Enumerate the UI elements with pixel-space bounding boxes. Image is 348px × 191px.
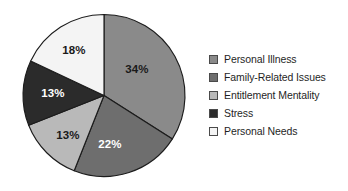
legend-item-label: Family-Related Issues (224, 71, 326, 83)
legend-swatch-icon (209, 127, 218, 136)
pie-chart-plot-area: 34%22%13%13%18% (0, 0, 205, 191)
legend-swatch-icon (209, 91, 218, 100)
legend-item-label: Personal Illness (224, 53, 297, 65)
legend-swatch-icon (209, 109, 218, 118)
legend-item-stress[interactable]: Stress (209, 104, 348, 122)
pie-slice-value-label: 13% (56, 129, 79, 141)
legend-swatch-icon (209, 55, 218, 64)
legend-item-personal-illness[interactable]: Personal Illness (209, 50, 348, 68)
pie-chart-figure: 34%22%13%13%18% Personal Illness Family-… (0, 0, 348, 191)
legend-item-entitlement-mentality[interactable]: Entitlement Mentality (209, 86, 348, 104)
legend-item-personal-needs[interactable]: Personal Needs (209, 122, 348, 140)
legend-item-family-related-issues[interactable]: Family-Related Issues (209, 68, 348, 86)
pie-chart-svg: 34%22%13%13%18% (0, 0, 205, 191)
legend-item-label: Personal Needs (224, 125, 297, 137)
pie-slice-value-label: 13% (41, 87, 64, 99)
pie-slice-value-label: 34% (125, 63, 148, 75)
legend-item-label: Stress (224, 107, 253, 119)
legend-item-label: Entitlement Mentality (224, 89, 319, 101)
legend-swatch-icon (209, 73, 218, 82)
pie-slice-value-label: 18% (62, 44, 85, 56)
pie-slice-value-label: 22% (98, 138, 121, 150)
chart-legend: Personal Illness Family-Related Issues E… (209, 50, 348, 140)
